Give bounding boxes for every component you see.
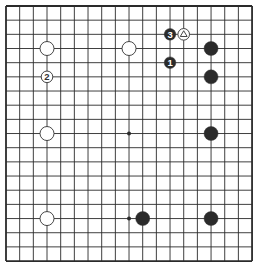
star-point <box>127 217 131 221</box>
white-stone <box>40 212 54 226</box>
move-number-label: 2 <box>44 71 49 82</box>
go-board-diagram: 231 <box>0 0 255 270</box>
black-stone <box>204 212 218 226</box>
star-point <box>127 132 131 136</box>
black-stone <box>204 70 218 84</box>
move-number-label: 3 <box>167 29 172 40</box>
black-stone <box>204 42 218 56</box>
move-number-label: 1 <box>167 57 173 68</box>
black-stone-1: 1 <box>164 57 176 69</box>
black-stone <box>136 212 150 226</box>
black-stone <box>204 127 218 141</box>
white-stone-2: 2 <box>41 71 53 83</box>
white-stone <box>122 42 136 56</box>
white-stone <box>40 42 54 56</box>
black-stone-3: 3 <box>164 29 176 41</box>
white-stone-triangle <box>178 29 190 41</box>
white-stone <box>40 127 54 141</box>
go-board: 231 <box>0 0 255 270</box>
